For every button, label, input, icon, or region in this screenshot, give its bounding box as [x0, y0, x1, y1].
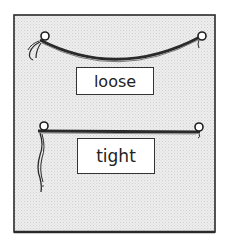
diagram-canvas: [0, 0, 226, 245]
loose-label-text: loose: [94, 72, 136, 91]
loose-right-peg-icon: [198, 32, 206, 40]
tight-label: tight: [77, 138, 155, 174]
tight-label-text: tight: [96, 146, 136, 166]
loose-left-peg-icon: [41, 32, 49, 40]
tight-right-peg-icon: [195, 123, 203, 131]
tight-left-peg-icon: [40, 122, 48, 130]
loose-label: loose: [76, 67, 154, 95]
